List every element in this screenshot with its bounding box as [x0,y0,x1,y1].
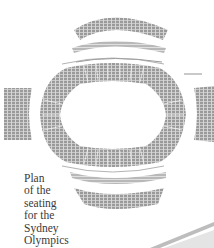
caption-line: of the [24,184,84,196]
top-upper-stand [74,18,168,41]
caption-line: Sydney [24,222,84,234]
top-middle-ring [72,41,166,53]
left-stand [4,88,32,140]
bottom-middle-ring [70,172,166,184]
bottom-lower-stand [74,188,164,209]
figure-caption: Plan of the seating for the Sydney Olymp… [24,172,84,246]
caption-line: Plan [24,172,84,184]
caption-line: Olympics [24,234,84,246]
right-stand [194,86,214,142]
field [60,81,166,149]
caption-line: seating [24,197,84,209]
caption-line: for the [24,209,84,221]
